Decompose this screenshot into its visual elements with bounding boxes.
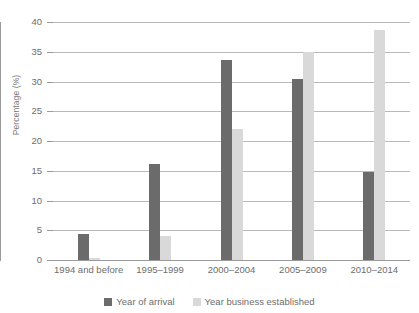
y-axis-line xyxy=(0,22,1,261)
legend-label: Year business established xyxy=(205,296,315,307)
legend-label: Year of arrival xyxy=(116,296,174,307)
bar xyxy=(160,236,171,260)
y-axis-tick-label: 30 xyxy=(12,76,42,87)
bar xyxy=(78,234,89,260)
x-axis-tick-label: 2010–2014 xyxy=(351,264,399,275)
bar xyxy=(303,52,314,260)
bar xyxy=(232,129,243,260)
y-axis-tick-label: 10 xyxy=(12,195,42,206)
x-axis-tick-label: 1994 and before xyxy=(54,264,123,275)
legend-swatch-icon xyxy=(104,298,112,306)
y-axis-tick-label: 40 xyxy=(12,16,42,27)
x-axis-tick-label: 2000–2004 xyxy=(208,264,256,275)
legend-item-year-of-arrival: Year of arrival xyxy=(104,296,174,307)
x-axis-tick-label: 1995–1999 xyxy=(136,264,184,275)
bar xyxy=(221,60,232,260)
bar xyxy=(89,258,100,260)
gridline xyxy=(53,260,410,261)
y-axis-tick xyxy=(47,260,53,261)
bar xyxy=(292,79,303,260)
y-axis-tick-label: 5 xyxy=(12,224,42,235)
plot-area xyxy=(53,22,410,260)
y-axis-tick-label: 25 xyxy=(12,105,42,116)
legend-item-year-business-established: Year business established xyxy=(193,296,315,307)
bar xyxy=(149,164,160,260)
y-axis-tick-label: 15 xyxy=(12,165,42,176)
y-axis-tick-label: 0 xyxy=(12,254,42,265)
y-axis-tick-label: 20 xyxy=(12,135,42,146)
chart-legend: Year of arrival Year business establishe… xyxy=(0,296,419,307)
legend-swatch-icon xyxy=(193,298,201,306)
y-axis-tick-label: 35 xyxy=(12,46,42,57)
x-axis-tick-label: 2005–2009 xyxy=(279,264,327,275)
bar-chart: Percentage (%) 4035302520151050 1994 and… xyxy=(0,0,419,313)
bar xyxy=(374,30,385,260)
bar xyxy=(363,172,374,260)
